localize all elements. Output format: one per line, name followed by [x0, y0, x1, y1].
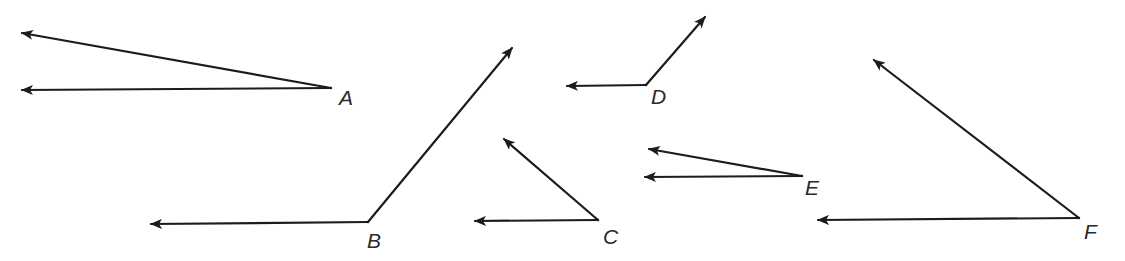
- angle-f: F: [818, 60, 1098, 243]
- angle-b: B: [151, 48, 512, 252]
- vertex-f: [1078, 217, 1080, 219]
- vertex-label-a: A: [337, 86, 353, 109]
- angle-a: A: [22, 33, 353, 109]
- ray-b-left: [151, 222, 368, 224]
- vertex-b: [367, 221, 369, 223]
- angles-diagram: ABCDEF: [0, 0, 1125, 261]
- vertex-e: [801, 175, 803, 177]
- ray-d-left: [567, 85, 646, 86]
- ray-a-left: [22, 88, 331, 90]
- ray-e-left: [645, 176, 802, 177]
- vertex-c: [597, 219, 599, 221]
- angles-layer: ABCDEF: [22, 17, 1098, 252]
- ray-c-left: [475, 220, 598, 221]
- vertex-label-f: F: [1084, 220, 1098, 243]
- ray-b-up-right: [368, 48, 512, 222]
- ray-e-left-slightly-up: [649, 149, 802, 176]
- ray-f-up-left: [874, 60, 1079, 218]
- ray-d-up-right: [646, 17, 705, 85]
- ray-c-up-left: [504, 139, 598, 220]
- vertex-label-e: E: [805, 176, 820, 199]
- ray-f-left: [818, 218, 1079, 220]
- vertex-d: [645, 84, 647, 86]
- vertex-a: [330, 87, 332, 89]
- ray-a-left-slightly-up: [22, 33, 331, 88]
- angle-e: E: [645, 149, 820, 199]
- vertex-label-b: B: [367, 229, 381, 252]
- vertex-label-c: C: [603, 225, 619, 248]
- angle-c: C: [475, 139, 619, 248]
- vertex-label-d: D: [651, 85, 666, 108]
- angle-d: D: [567, 17, 705, 108]
